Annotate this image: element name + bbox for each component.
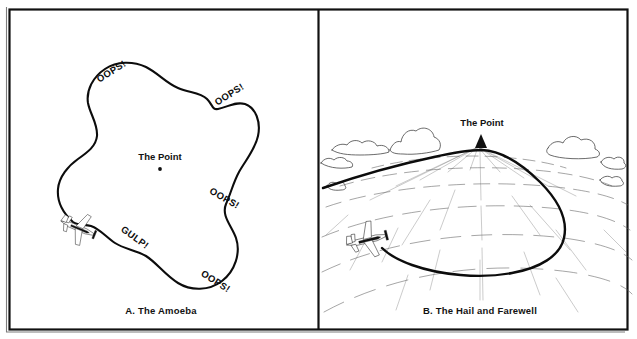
figure-svg: The Point OOPS! OOPS! OOPS! GULP! OOPS! … — [0, 0, 637, 339]
panel-a-point-label: The Point — [138, 151, 182, 162]
panel-b-caption: B. The Hail and Farewell — [423, 305, 537, 316]
panel-b-point-label: The Point — [460, 117, 504, 128]
figure-container: The Point OOPS! OOPS! OOPS! GULP! OOPS! … — [0, 0, 637, 339]
amoeba-center-dot — [158, 167, 162, 171]
panel-a-caption: A. The Amoeba — [125, 305, 197, 316]
